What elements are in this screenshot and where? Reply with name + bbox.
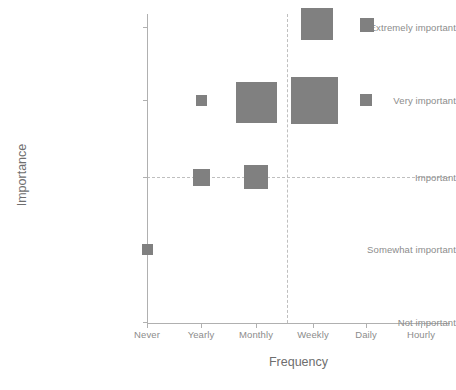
- x-tick-mark: [366, 323, 367, 328]
- bubble-chart: Extremely importantVery importantImporta…: [0, 0, 456, 390]
- x-axis-title: Frequency: [147, 355, 450, 369]
- data-marker-monthly-important: [244, 165, 268, 189]
- x-tick-mark: [313, 323, 314, 328]
- x-tick-label: Hourly: [407, 329, 435, 340]
- x-tick-mark: [201, 323, 202, 328]
- x-tick-mark: [421, 323, 422, 328]
- x-tick-label: Yearly: [188, 329, 215, 340]
- x-tick-label: Monthly: [239, 329, 273, 340]
- data-marker-yearly-important: [193, 169, 210, 186]
- x-tick-mark: [147, 323, 148, 328]
- y-tick-mark: [143, 177, 148, 178]
- y-tick-label: Not important: [316, 317, 456, 328]
- x-tick-label: Weekly: [297, 329, 329, 340]
- y-tick-label: Somewhat important: [316, 244, 456, 255]
- data-marker-weekly-extremely-important: [301, 8, 333, 40]
- data-marker-weekly-very-important: [291, 77, 338, 124]
- x-tick-label: Never: [134, 329, 160, 340]
- y-axis-title: Importance: [15, 115, 29, 235]
- y-tick-mark: [143, 27, 148, 28]
- data-marker-daily-extremely-important: [360, 18, 374, 32]
- y-tick-mark: [143, 100, 148, 101]
- data-marker-yearly-very-important: [196, 95, 207, 106]
- data-marker-never-somewhat-important: [142, 244, 153, 255]
- data-marker-daily-very-important: [360, 94, 372, 106]
- y-tick-label: Important: [316, 172, 456, 183]
- x-tick-label: Daily: [355, 329, 377, 340]
- x-tick-mark: [256, 323, 257, 328]
- y-axis-line: [147, 14, 148, 324]
- y-tick-label: Extremely important: [316, 22, 456, 33]
- reference-line-vertical: [287, 14, 288, 323]
- data-marker-monthly-very-important: [236, 82, 277, 123]
